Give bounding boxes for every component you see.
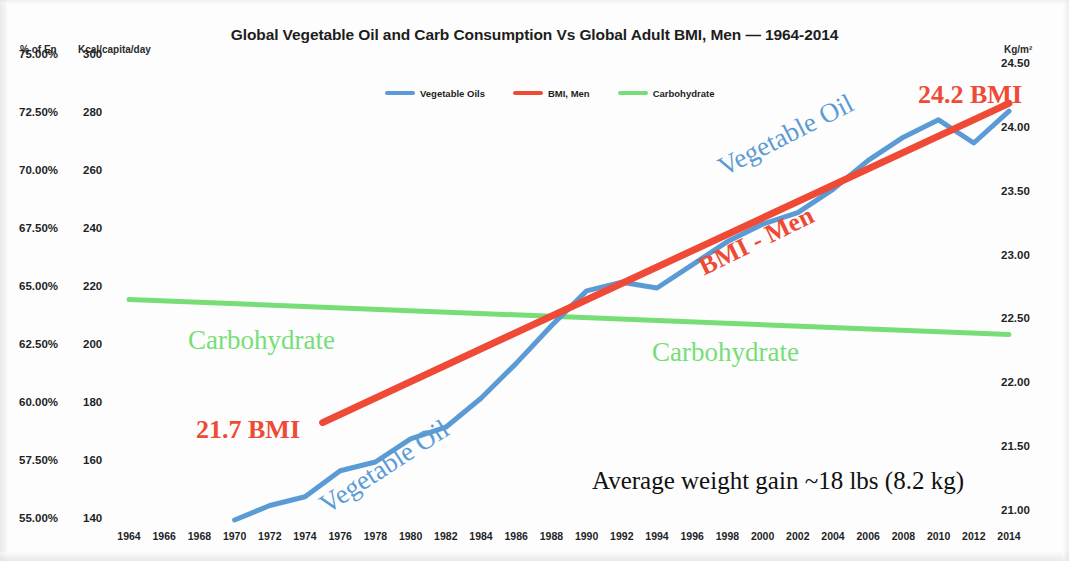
scan-edge-top [0,0,1069,4]
x-axis-tick: 1982 [428,530,464,542]
x-axis-tick: 2002 [780,530,816,542]
right-bmi-tick: 21.00 [1001,504,1030,516]
right-bmi-tick: 22.50 [1001,312,1030,324]
x-axis-tick: 2008 [885,530,921,542]
right-bmi-tick: 24.50 [1001,57,1030,69]
x-axis-tick: 2012 [956,530,992,542]
x-axis-tick: 1970 [217,530,253,542]
right-bmi-tick: 23.00 [1001,249,1030,261]
annotation-vegetable-oil-lower: Vegetable Oil [314,414,455,520]
x-axis-tick: 1994 [639,530,675,542]
left-percent-tick: 65.00% [19,280,58,292]
annotation-vegetable-oil-upper: Vegetable Oil [713,88,859,183]
x-axis-tick: 1974 [287,530,323,542]
x-axis-tick: 1984 [463,530,499,542]
left-percent-tick: 67.50% [19,222,58,234]
x-axis-tick: 1972 [252,530,288,542]
left-percent-tick: 60.00% [19,396,58,408]
left-percent-tick: 62.50% [19,338,58,350]
x-axis-tick: 1978 [357,530,393,542]
right-bmi-tick: 23.50 [1001,185,1030,197]
left-kcal-tick: 180 [83,396,102,408]
x-axis-tick: 1968 [181,530,217,542]
left-kcal-tick: 220 [83,280,102,292]
x-axis-tick: 2006 [850,530,886,542]
chart-legend: Vegetable OilsBMI, MenCarbohydrate [385,84,715,102]
legend-swatch-icon [618,91,648,95]
left-kcal-tick: 300 [83,48,102,60]
chart-title: Global Vegetable Oil and Carb Consumptio… [0,26,1069,44]
x-axis-tick: 1966 [146,530,182,542]
annotation-carbohydrate-right: Carbohydrate [652,337,799,368]
legend-item-label: Vegetable Oils [420,88,485,99]
x-axis-tick: 1996 [674,530,710,542]
legend-swatch-icon [513,91,543,95]
x-axis-tick: 1976 [322,530,358,542]
x-axis-tick: 1988 [533,530,569,542]
legend-item[interactable]: Carbohydrate [618,88,715,99]
right-bmi-tick: 21.50 [1001,440,1030,452]
legend-item[interactable]: Vegetable Oils [385,88,485,99]
x-axis-tick: 1980 [393,530,429,542]
scan-edge-left [0,0,7,561]
legend-swatch-icon [385,91,415,95]
annotation-carbohydrate-left: Carbohydrate [188,325,335,356]
series-line-vegetable-oils [235,111,1009,520]
annotation-bmi-low: 21.7 BMI [196,415,300,445]
left-percent-tick: 75.00% [19,48,58,60]
x-axis-tick: 1986 [498,530,534,542]
left-kcal-tick: 280 [83,106,102,118]
scan-edge-right [1063,0,1069,561]
legend-item-label: BMI, Men [548,88,590,99]
right-axis-unit-bmi: Kg/m² [1004,44,1032,55]
scan-edge-bottom [0,552,1069,561]
left-percent-tick: 70.00% [19,164,58,176]
legend-item[interactable]: BMI, Men [513,88,590,99]
legend-item-label: Carbohydrate [653,88,715,99]
series-line-bmi-men [323,103,1009,422]
left-kcal-tick: 240 [83,222,102,234]
chart-canvas: Global Vegetable Oil and Carb Consumptio… [0,0,1069,561]
x-axis-tick: 2000 [745,530,781,542]
x-axis-tick: 1990 [569,530,605,542]
x-axis-tick: 2010 [921,530,957,542]
annotation-average-weight-gain: Average weight gain ~18 lbs (8.2 kg) [592,467,964,495]
left-kcal-tick: 140 [83,512,102,524]
annotation-bmi-high: 24.2 BMI [918,80,1022,110]
left-kcal-tick: 160 [83,454,102,466]
right-bmi-tick: 22.00 [1001,376,1030,388]
left-kcal-tick: 200 [83,338,102,350]
left-percent-tick: 72.50% [19,106,58,118]
x-axis-tick: 2014 [991,530,1027,542]
left-kcal-tick: 260 [83,164,102,176]
annotation-bmi-men: BMI - Men [694,201,819,282]
x-axis-tick: 2004 [815,530,851,542]
left-percent-tick: 55.00% [19,512,58,524]
right-bmi-tick: 24.00 [1001,121,1030,133]
left-percent-tick: 57.50% [19,454,58,466]
x-axis-tick: 1992 [604,530,640,542]
x-axis-tick: 1998 [709,530,745,542]
x-axis-tick: 1964 [111,530,147,542]
